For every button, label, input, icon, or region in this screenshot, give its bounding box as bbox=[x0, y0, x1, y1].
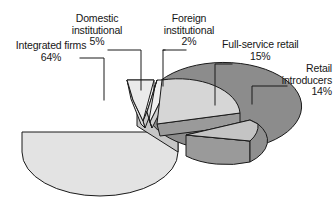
slice-label-domestic-institutional-line1: Domestic bbox=[56, 13, 138, 25]
slice-label-foreign-institutional-line1: Foreign bbox=[150, 13, 228, 25]
slice-label-full-service-retail: Full-service retail 15% bbox=[222, 39, 299, 62]
slice-label-foreign-institutional: Foreign institutional 2% bbox=[150, 13, 228, 48]
slice-label-retail-introducers-line1: Retail bbox=[244, 63, 332, 75]
slice-label-integrated-firms-line1: Integrated firms bbox=[2, 40, 100, 52]
slice-value-retail-introducers: 14% bbox=[244, 86, 332, 98]
pie-chart: Domestic institutional 5% Foreign instit… bbox=[0, 0, 334, 224]
slice-value-integrated-firms: 64% bbox=[2, 52, 100, 64]
slice-label-full-service-retail-line1: Full-service retail bbox=[222, 39, 299, 51]
slice-label-retail-introducers: Retail introducers 14% bbox=[244, 63, 332, 98]
slice-value-full-service-retail: 15% bbox=[222, 51, 299, 63]
slice-value-foreign-institutional: 2% bbox=[150, 36, 228, 48]
slice-label-integrated-firms: Integrated firms 64% bbox=[2, 40, 100, 63]
leader-integrated-firms bbox=[80, 58, 104, 100]
